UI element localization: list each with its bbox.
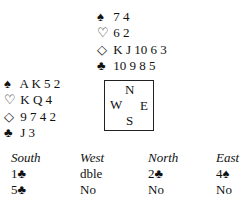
north-hearts-cards: 6 2 xyxy=(113,25,129,40)
west-diamonds-cards: 9 7 4 2 xyxy=(20,109,56,124)
bid-west: No xyxy=(80,182,96,198)
diamond-icon: ◇ xyxy=(97,42,110,58)
north-spades-row: ♠ 7 4 xyxy=(97,9,167,25)
bid-east: No xyxy=(216,182,232,198)
west-clubs-cards: J 3 xyxy=(20,125,35,140)
west-hand: ♠ A K 5 2 ♡ K Q 4 ◇ 9 7 4 2 ♣ J 3 xyxy=(4,76,60,141)
north-hand: ♠ 7 4 ♡ 6 2 ◇ K J 10 6 3 ♣ 10 9 8 5 xyxy=(97,9,167,74)
compass-west-label: W xyxy=(110,97,122,113)
spade-icon: ♠ xyxy=(97,9,110,25)
auction-row: 1♣ dble 2♣ 4♠ xyxy=(0,166,248,182)
north-clubs-row: ♣ 10 9 8 5 xyxy=(97,58,167,74)
compass-north-label: N xyxy=(125,82,134,98)
auction-row: 5♣ No No No xyxy=(0,182,248,198)
bid-south: 5♣ xyxy=(11,182,26,198)
north-diamonds-cards: K J 10 6 3 xyxy=(113,42,166,57)
north-clubs-cards: 10 9 8 5 xyxy=(113,58,155,73)
north-hearts-row: ♡ 6 2 xyxy=(97,25,167,41)
west-spades-row: ♠ A K 5 2 xyxy=(4,76,60,92)
bid-east: 4♠ xyxy=(216,166,229,182)
compass-south-label: S xyxy=(126,113,133,129)
west-clubs-row: ♣ J 3 xyxy=(4,125,60,141)
west-diamonds-row: ◇ 9 7 4 2 xyxy=(4,109,60,125)
compass-box: N W E S xyxy=(104,80,154,131)
heart-icon: ♡ xyxy=(97,25,110,41)
club-icon: ♣ xyxy=(97,58,110,74)
auction-header-west: West xyxy=(80,150,104,166)
north-spades-cards: 7 4 xyxy=(113,9,129,24)
compass-east-label: E xyxy=(140,98,148,114)
bid-west: dble xyxy=(80,166,102,182)
west-hearts-cards: K Q 4 xyxy=(20,92,52,107)
auction-header-north: North xyxy=(148,150,178,166)
west-hearts-row: ♡ K Q 4 xyxy=(4,92,60,108)
bid-south: 1♣ xyxy=(11,166,26,182)
auction-header-south: South xyxy=(11,150,41,166)
auction-header-row: South West North East xyxy=(0,150,248,166)
auction-table: South West North East 1♣ dble 2♣ 4♠ 5♣ N… xyxy=(0,150,248,198)
heart-icon: ♡ xyxy=(4,92,17,108)
auction-header-east: East xyxy=(216,150,239,166)
north-diamonds-row: ◇ K J 10 6 3 xyxy=(97,42,167,58)
bid-north: No xyxy=(148,182,164,198)
spade-icon: ♠ xyxy=(4,76,17,92)
bid-north: 2♣ xyxy=(148,166,163,182)
club-icon: ♣ xyxy=(4,125,17,141)
diamond-icon: ◇ xyxy=(4,109,17,125)
west-spades-cards: A K 5 2 xyxy=(20,76,61,91)
